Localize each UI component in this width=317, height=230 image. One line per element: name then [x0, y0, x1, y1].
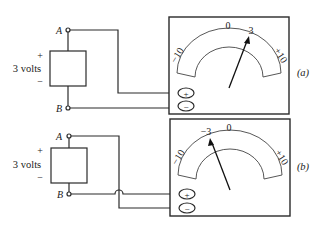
source-box-a	[50, 51, 86, 86]
terminal-node-a-top	[66, 28, 70, 32]
wire-b-to-plus-hop	[71, 190, 180, 194]
terminal-node-b-top	[67, 134, 71, 138]
plus-terminal-label-a: +	[183, 89, 188, 99]
plus-sign-a: +	[37, 50, 43, 61]
voltage-source-b: A B + 3 volts −	[13, 131, 87, 200]
node-label-a-bottom: B	[56, 103, 62, 114]
voltmeter-a: 0 3 −10 +10 + −	[168, 17, 290, 114]
voltmeter-polarity-diagram: A B + 3 volts − 0 3 −10 +10 + −	[0, 0, 317, 230]
voltage-source-a: A B + 3 volts −	[13, 25, 86, 114]
circuit-a: A B + 3 volts − 0 3 −10 +10 + −	[13, 17, 310, 114]
scale-zero-b: 0	[227, 122, 232, 133]
voltmeter-b: 0 −3 −10 +10 + −	[169, 119, 291, 216]
source-box-b	[51, 148, 87, 183]
minus-sign-a: −	[37, 76, 43, 87]
minus-terminal-label-a: −	[183, 102, 188, 112]
node-label-a-top: A	[55, 25, 63, 36]
figure-label-a: (a)	[297, 67, 310, 79]
scale-reading-a: 3	[249, 25, 254, 36]
minus-terminal-label-b: −	[184, 204, 189, 214]
scale-zero-a: 0	[226, 20, 231, 31]
plus-sign-b: +	[37, 145, 43, 156]
minus-sign-b: −	[37, 172, 43, 183]
scale-reading-b: −3	[201, 126, 212, 137]
node-label-b-bottom: B	[57, 189, 63, 200]
figure-label-b: (b)	[297, 161, 310, 173]
terminal-node-b-bottom	[67, 192, 71, 196]
plus-terminal-label-b: +	[184, 190, 189, 200]
circuit-b: A B + 3 volts − 0 −3 −10 +10 + −	[13, 119, 310, 216]
voltage-label-b: 3 volts	[13, 159, 41, 170]
node-label-b-top: A	[55, 131, 63, 142]
voltage-label-a: 3 volts	[13, 63, 41, 74]
terminal-node-a-bottom	[66, 106, 70, 110]
